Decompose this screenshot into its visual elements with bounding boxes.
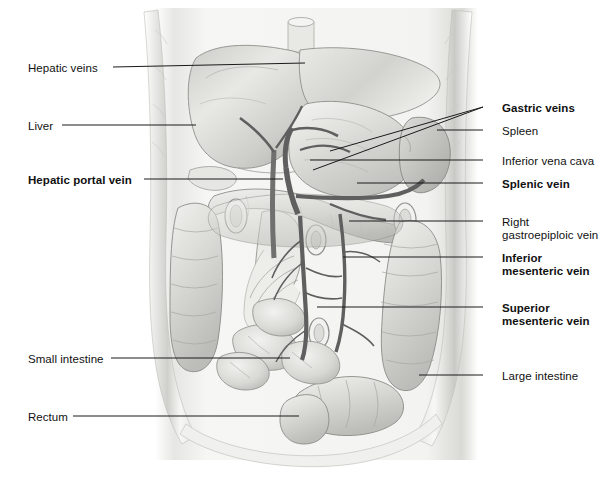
label-hepatic-veins: Hepatic veins [28, 62, 56, 75]
esophagus-lumen [288, 18, 314, 27]
label-large-intestine: Large intestine [502, 370, 578, 383]
label-splenic-vein: Splenic vein [502, 178, 570, 191]
label-right-gastroepiploic: Right gastroepiploic vein [502, 216, 598, 241]
label-inferior-mesenteric: Inferior mesenteric vein [502, 252, 590, 277]
label-small-intestine: Small intestine [28, 353, 56, 366]
label-rectum: Rectum [28, 411, 56, 424]
abdominal-cavity-illustration [62, 8, 483, 467]
label-spleen: Spleen [502, 125, 538, 138]
label-liver: Liver [28, 120, 56, 133]
label-superior-mesenteric: Superior mesenteric vein [502, 302, 590, 327]
vessel-stump-lower-lumen [314, 324, 324, 342]
label-inferior-vena-cava: Inferior vena cava [502, 155, 594, 168]
inferior-vena-cava-vessel [273, 150, 275, 258]
label-hepatic-portal-vein: Hepatic portal vein [28, 174, 56, 187]
label-gastric-veins: Gastric veins [502, 102, 575, 115]
rectum [280, 395, 329, 444]
